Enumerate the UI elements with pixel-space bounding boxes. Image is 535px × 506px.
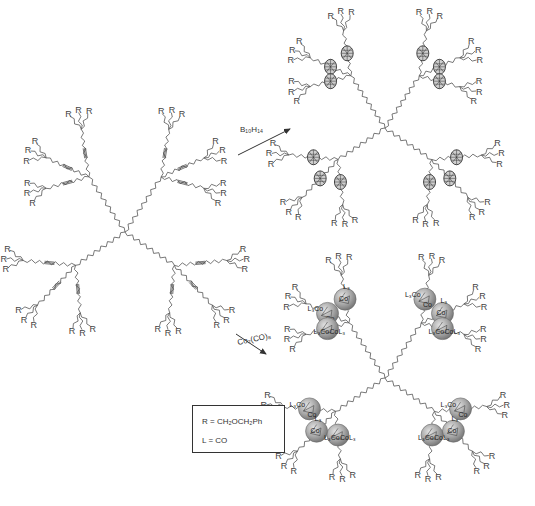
r-group-label: R — [477, 55, 484, 65]
cobalt-label: CoL₃ — [330, 328, 346, 335]
r-group-label: R — [479, 207, 486, 217]
r-group-label: R — [476, 76, 483, 86]
r-group-label: R — [436, 11, 443, 21]
cobalt-label: L₃ — [440, 297, 447, 304]
r-group-label: R — [175, 326, 182, 336]
r-group-label: R — [339, 474, 346, 484]
cobalt-label: Co — [339, 295, 348, 302]
alkyne-bond — [196, 264, 206, 265]
r-group-label: R — [242, 264, 249, 274]
r-group-label: R — [165, 328, 172, 338]
carborane-cage-icon — [325, 74, 337, 89]
bond-chain — [30, 188, 47, 193]
bond-chain — [81, 114, 88, 130]
r-group-label: R — [415, 470, 422, 480]
bond-chain — [227, 261, 242, 269]
r-group-label: R — [337, 6, 344, 16]
r-group-label: R — [480, 324, 487, 334]
alkyne-bond — [189, 282, 196, 289]
r-group-label: R — [329, 472, 336, 482]
r-group-label: R — [229, 305, 236, 315]
r-group-label: R — [220, 188, 227, 198]
r-group-label: R — [219, 145, 226, 155]
r-group-label: R — [75, 105, 82, 115]
carborane-cage-icon — [314, 171, 326, 186]
r-group-label: R — [496, 159, 503, 169]
carborane-cage-icon — [451, 150, 463, 165]
bond-chain — [125, 177, 161, 232]
r-group-label: R — [352, 215, 359, 225]
bond-chain — [487, 407, 502, 415]
r-group-label: R — [412, 215, 419, 225]
bond-chain — [426, 14, 430, 31]
r-group-label: R — [221, 156, 228, 166]
r-group-label: R — [288, 87, 295, 97]
cobalt-label: L₃Co — [289, 401, 305, 408]
r-group-label: R — [475, 344, 482, 354]
r-group-label: R — [169, 105, 176, 115]
alkyne-bond — [79, 284, 80, 294]
bond-chain — [169, 113, 173, 130]
bond-chain — [385, 323, 421, 378]
carborane-product: RRRRRRRRRRRRRRRRRRRRRRRRRRRRRRRRRRRR — [266, 6, 505, 229]
bond-chain — [291, 297, 307, 304]
r-group-label: R — [479, 291, 486, 301]
r-group-label: R — [435, 472, 442, 482]
r-group-label: R — [32, 136, 39, 146]
bond-chain — [274, 155, 289, 163]
alkyne-bond — [190, 282, 197, 289]
legend-l-definition: L = CO — [202, 431, 284, 450]
alkyne-bond — [76, 284, 77, 294]
bond-chain — [422, 260, 429, 276]
carborane-cage-icon — [417, 46, 429, 61]
r-group-label: R — [266, 148, 273, 158]
r-group-label: R — [158, 106, 165, 116]
r-group-label: R — [504, 400, 511, 410]
r-group-label: R — [439, 255, 446, 265]
bond-chain — [290, 334, 306, 339]
bond-chain — [351, 76, 385, 128]
r-group-label: R — [29, 198, 36, 208]
alkyne-bond — [195, 261, 205, 262]
r-group-label: R — [23, 156, 30, 166]
bond-chain — [293, 57, 310, 61]
r-group-label: R — [480, 334, 487, 344]
r-group-label: R — [489, 451, 496, 461]
arrow-carborane: B₁₀H₁₄ — [238, 125, 290, 155]
r-group-label: R — [15, 305, 22, 315]
bond-chain — [294, 86, 310, 91]
r-group-label: R — [331, 218, 338, 228]
r-group-label: R — [292, 282, 299, 292]
bond-chain — [30, 183, 46, 188]
r-group-label: R — [25, 145, 32, 155]
bond-chain — [349, 323, 385, 378]
r-group-label: R — [285, 207, 292, 217]
r-group-label: R — [179, 109, 186, 119]
bond-chain — [31, 151, 47, 158]
r-group-label: R — [472, 282, 479, 292]
cobalt-product: L₃CoCoRRRL₃CoRRRL₃CoCoL₃RRRL₃CoCoRRRL₃Co… — [260, 251, 510, 484]
cobalt-label: L₃Co — [441, 401, 457, 408]
bond-chain — [336, 378, 385, 411]
bond-chain — [162, 114, 169, 130]
r-group-label: R — [264, 390, 271, 400]
legend-box: R = CH₂OCH₂Ph L = CO — [192, 405, 285, 453]
carborane-cage-icon — [433, 74, 445, 89]
bond-chain — [385, 76, 419, 128]
cobalt-label: L₃Co — [418, 434, 434, 441]
r-group-label: R — [474, 466, 481, 476]
r-group-label: R — [79, 328, 86, 338]
bond-chain — [385, 378, 434, 411]
r-group-label: R — [416, 7, 423, 17]
carborane-cage-icon — [334, 175, 346, 190]
alkyne-bond — [173, 284, 174, 294]
r-group-label: R — [280, 197, 287, 207]
bond-chain — [338, 128, 385, 160]
bond-chain — [464, 329, 480, 334]
r-group-label: R — [294, 96, 301, 106]
r-group-label: R — [349, 470, 356, 480]
cobalt-label: L₃Co — [428, 328, 444, 335]
r-group-label: R — [427, 6, 434, 16]
r-group-label: R — [89, 324, 96, 334]
carborane-cage-icon — [325, 59, 337, 74]
